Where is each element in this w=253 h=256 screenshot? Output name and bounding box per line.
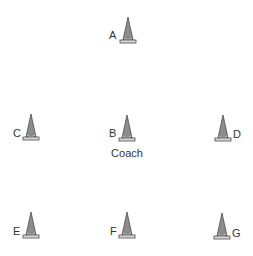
cone-e: [22, 211, 40, 239]
traffic-cone-icon: [214, 114, 232, 142]
cone-f: [118, 211, 136, 239]
cone-label-d: D: [233, 128, 241, 140]
cone-label-a: A: [109, 29, 116, 41]
traffic-cone-icon: [118, 114, 136, 142]
cone-a: [119, 16, 137, 44]
traffic-cone-icon: [22, 211, 40, 239]
cone-label-e: E: [13, 225, 20, 237]
traffic-cone-icon: [22, 113, 40, 141]
traffic-cone-icon: [213, 212, 231, 240]
coach-caption: Coach: [97, 147, 157, 159]
cone-label-f: F: [110, 225, 117, 237]
cone-label-c: C: [13, 127, 21, 139]
cone-label-g: G: [232, 227, 241, 239]
cone-b: [118, 114, 136, 142]
cone-g: [213, 212, 231, 240]
traffic-cone-icon: [119, 16, 137, 44]
traffic-cone-icon: [118, 211, 136, 239]
cone-c: [22, 113, 40, 141]
cone-label-b: B: [109, 127, 116, 139]
cone-d: [214, 114, 232, 142]
